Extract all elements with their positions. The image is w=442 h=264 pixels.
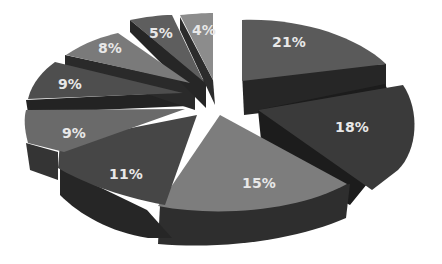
label-4: 4% (192, 22, 216, 38)
label-15: 15% (242, 175, 276, 191)
label-9-lower: 9% (62, 125, 86, 141)
label-8: 8% (98, 40, 122, 56)
label-5: 5% (149, 25, 173, 41)
label-9-upper: 9% (58, 76, 82, 92)
label-18: 18% (335, 119, 369, 135)
label-21: 21% (272, 34, 306, 50)
label-11: 11% (109, 166, 143, 182)
